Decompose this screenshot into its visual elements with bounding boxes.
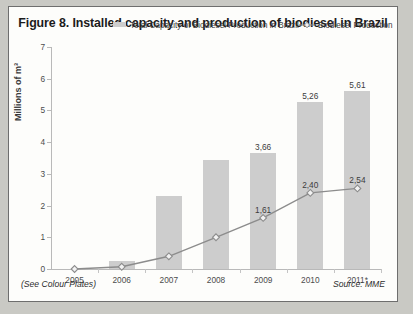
- legend-item-biodiesel-production: Biodiesel Production: [299, 21, 393, 30]
- y-tick-label: 0: [25, 265, 45, 273]
- y-tick-label: 4: [25, 138, 45, 146]
- legend-line-marker: [299, 21, 315, 29]
- line-marker: [118, 263, 125, 270]
- chart-legend: Total Capacity of Biodiesel Production i…: [51, 21, 381, 33]
- legend-bar-swatch: [113, 22, 126, 27]
- line-marker: [165, 253, 172, 260]
- legend-label-total-capacity: Total Capacity of Biodiesel Production i…: [130, 21, 299, 30]
- bar-value-label: 5,61: [335, 80, 379, 90]
- figure-footer: (See Colour Plates) Source: MME: [9, 279, 397, 293]
- source-note: Source: MME: [333, 279, 385, 289]
- y-tick-label: 3: [25, 170, 45, 178]
- plot-area: Millions of m³ 01234567 3,665,265,611,61…: [51, 47, 381, 271]
- y-axis-title: Millions of m³: [13, 47, 23, 137]
- line-marker: [71, 266, 78, 273]
- line-marker: [213, 234, 220, 241]
- x-tick: [381, 269, 382, 273]
- y-tick-label: 5: [25, 106, 45, 114]
- line-marker: [260, 215, 267, 222]
- line-marker: [307, 189, 314, 196]
- line-value-label: 2,54: [335, 175, 379, 185]
- legend-item-total-capacity: Total Capacity of Biodiesel Production i…: [113, 21, 299, 30]
- line-path: [75, 188, 358, 269]
- line-series: [51, 47, 381, 271]
- line-value-label: 1,61: [241, 205, 285, 215]
- line-value-label: 2,40: [288, 180, 332, 190]
- figure-panel: Figure 8. Installed capacity and product…: [8, 6, 398, 302]
- y-tick-label: 6: [25, 75, 45, 83]
- bar-value-label: 3,66: [241, 142, 285, 152]
- bar-value-label: 5,26: [288, 91, 332, 101]
- see-colour-plates-note: (See Colour Plates): [21, 279, 96, 289]
- line-marker: [354, 185, 361, 192]
- legend-label-biodiesel-production: Biodiesel Production: [318, 21, 393, 30]
- y-tick-label: 7: [25, 43, 45, 51]
- y-tick-label: 1: [25, 233, 45, 241]
- y-tick-label: 2: [25, 202, 45, 210]
